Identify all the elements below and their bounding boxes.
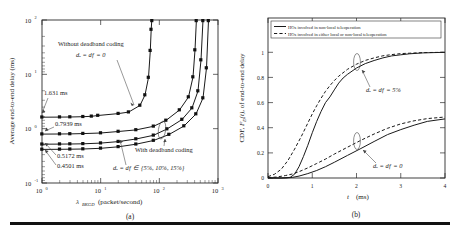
y-tick-label-b-3: 0.6 xyxy=(257,100,264,106)
svg-text:CDF, FD(t), of end-to-end dela: CDF, FD(t), of end-to-end delay xyxy=(238,53,247,143)
leader-arrow-07939 xyxy=(45,128,49,131)
horizontal-rule xyxy=(10,222,450,225)
annotation-value-07939: 0.7939 ms xyxy=(55,120,82,127)
y-tick-labels-b: 0 0.2 0.4 0.6 0.8 1 xyxy=(257,50,264,182)
annotation-b-upper-group: dₑ = dƒ = 5% xyxy=(366,86,401,94)
panel-b-cdf: 0 0.2 0.4 0.6 0.8 1 0 1 2 3 4 CDF, FD(t)… xyxy=(230,0,460,237)
x-tick-label-b-2: 2 xyxy=(355,183,358,189)
y-tick-exp-a-3: -1 xyxy=(35,178,39,183)
y-axis-title-b-prefix: CDF, xyxy=(238,126,246,143)
subfigure-label-a: (a) xyxy=(126,212,135,221)
y-tick-label-b-2: 0.4 xyxy=(257,125,264,131)
markers-deadband-5 xyxy=(40,19,198,136)
legend-label-0: HOs involved in non-local teleoperation xyxy=(288,25,361,30)
y-tick-label-a-0: 10 xyxy=(25,17,32,24)
x-axis-title-a: λ BKGD (packet/second) xyxy=(75,198,143,207)
y-tick-labels-a: 10 2 10 1 10 0 10 -1 xyxy=(25,15,38,187)
figure-container: 10 2 10 1 10 0 10 -1 10 0 10 1 10 2 10 3 xyxy=(0,0,460,237)
x-axis-title-b: t (ms) xyxy=(347,193,369,201)
x-tick-exp-a-3: 3 xyxy=(222,186,225,191)
x-axis-title-b-t: t xyxy=(347,193,350,201)
annotation-value-04501: 0.4501 ms xyxy=(57,162,84,169)
x-tick-label-b-4: 4 xyxy=(444,183,447,189)
annotation-value-1631: 1.631 ms xyxy=(44,89,68,96)
markers-without-deadband xyxy=(40,19,153,119)
leader-arrow-04501 xyxy=(45,150,49,154)
curve-b-0-either xyxy=(268,117,445,178)
y-tick-label-b-4: 0.8 xyxy=(257,75,264,81)
curve-b-5pct-nonlocal xyxy=(268,52,445,178)
curve-b-5pct-either xyxy=(268,52,445,176)
leader-arrow-05172 xyxy=(45,143,49,146)
x-tick-label-a-0: 10 xyxy=(36,187,43,194)
x-tick-exp-a-1: 1 xyxy=(104,186,106,191)
x-axis-title-a-rest: (packet/second) xyxy=(98,198,143,206)
subfigure-label-b: (b) xyxy=(352,210,361,219)
y-tick-exp-a-0: 2 xyxy=(35,15,37,20)
y-tick-label-a-2: 10 xyxy=(25,125,32,132)
curve-without-deadband xyxy=(42,20,152,117)
y-tick-label-b-5: 1 xyxy=(261,50,264,56)
y-axis-title-b: CDF, FD(t), of end-to-end delay xyxy=(238,53,247,143)
x-tick-exp-a-0: 0 xyxy=(46,186,49,191)
plot-frame-b xyxy=(268,18,445,178)
legend-b: HOs involved in non-local teleoperation … xyxy=(271,21,441,38)
x-tick-label-b-0: 0 xyxy=(267,183,270,189)
y-axis-title-b-suffix: , of end-to-end delay xyxy=(238,53,246,112)
annotation-without-deadband-condition: dₑ = dƒ = 0 xyxy=(76,51,106,59)
x-tick-exp-a-2: 2 xyxy=(163,186,165,191)
x-tick-label-a-1: 10 xyxy=(94,187,101,194)
panel-b-plot: 0 0.2 0.4 0.6 0.8 1 0 1 2 3 4 CDF, FD(t)… xyxy=(230,0,460,237)
legend-label-1: HOs involved in either local or non-loca… xyxy=(288,32,387,37)
y-tick-label-a-3: 10 xyxy=(25,180,32,187)
x-axis-title-a-sub: BKGD xyxy=(82,202,95,207)
x-tick-labels-a: 10 0 10 1 10 2 10 3 xyxy=(36,186,225,195)
y-axis-title-a: Average end-to-end delay (ms) xyxy=(8,57,16,144)
x-tick-label-a-2: 10 xyxy=(153,187,160,194)
x-axis-title-a-lambda: λ xyxy=(75,198,79,206)
panel-a-plot: 10 2 10 1 10 0 10 -1 10 0 10 1 10 2 10 3 xyxy=(0,0,230,237)
panel-a-delay-vs-load: 10 2 10 1 10 0 10 -1 10 0 10 1 10 2 10 3 xyxy=(0,0,230,237)
y-tick-label-b-0: 0 xyxy=(261,175,264,181)
x-tick-label-a-3: 10 xyxy=(212,187,219,194)
x-axis-title-b-unit: (ms) xyxy=(356,193,370,201)
leader-arrow-with-deadband xyxy=(163,139,166,142)
annotation-value-05172: 0.5172 ms xyxy=(57,152,84,159)
y-tick-label-b-1: 0.2 xyxy=(257,150,264,156)
annotation-b-lower-group: dₑ = dƒ = 0 xyxy=(373,162,403,170)
y-tick-label-a-1: 10 xyxy=(25,71,32,78)
annotation-with-deadband: With deadband coding xyxy=(135,146,193,153)
annotation-without-deadband: Without deadband coding xyxy=(58,40,125,47)
x-axis-ticks-b xyxy=(268,18,445,178)
leader-without-deadband xyxy=(117,60,134,105)
leader-condition-set xyxy=(120,140,126,165)
y-tick-exp-a-2: 0 xyxy=(35,124,38,129)
annotation-with-deadband-condition: dₑ = dƒ ∈ {5%, 10%, 15%} xyxy=(113,164,185,172)
x-tick-label-b-3: 3 xyxy=(399,183,402,189)
x-tick-label-b-1: 1 xyxy=(311,183,314,189)
x-tick-labels-b: 0 1 2 3 4 xyxy=(267,183,447,189)
y-tick-exp-a-1: 1 xyxy=(35,69,37,74)
y-axis-ticks-b xyxy=(268,52,445,178)
